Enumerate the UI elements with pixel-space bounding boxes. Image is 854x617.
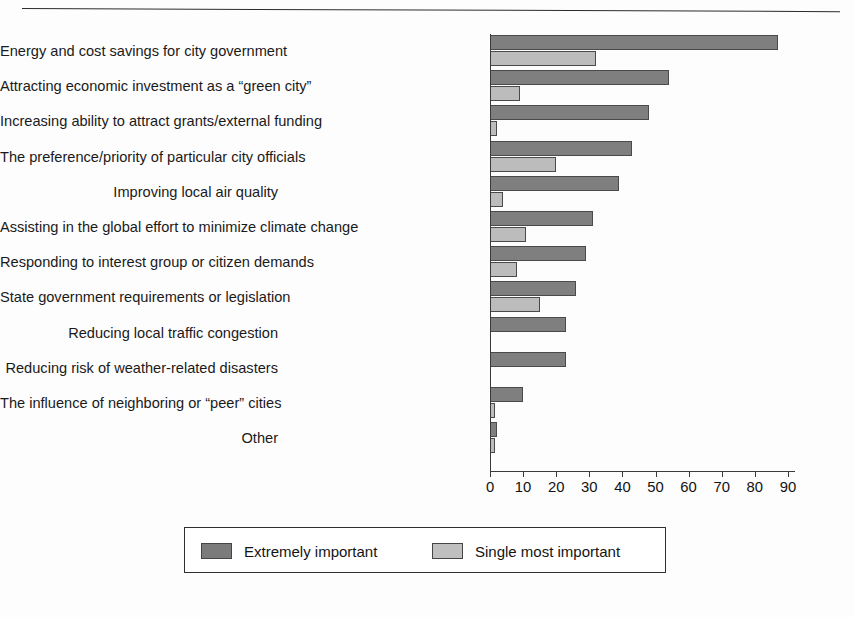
category-label: The influence of neighboring or “peer” c… [0, 386, 286, 421]
top-divider-rule [22, 8, 840, 12]
legend-swatch-icon [432, 543, 463, 559]
chart-legend: Extremely important Single most importan… [184, 527, 666, 573]
x-axis-tick [788, 471, 789, 477]
category-label: Reducing risk of weather-related disaste… [0, 351, 286, 386]
legend-item-extremely-important: Extremely important [201, 539, 377, 563]
plot-area: Energy and cost savings for city governm… [0, 34, 854, 470]
chart-row: The preference/priority of particular ci… [0, 140, 854, 175]
chart-row: Attracting economic investment as a “gre… [0, 69, 854, 104]
bar-extremely-important [490, 211, 593, 226]
bar-extremely-important [490, 281, 576, 296]
chart-row: Other [0, 421, 854, 456]
x-axis-tick [490, 471, 491, 477]
bar-extremely-important [490, 422, 497, 437]
bar-extremely-important [490, 70, 669, 85]
chart-row: Reducing local traffic congestion [0, 316, 854, 351]
chart-row: Energy and cost savings for city governm… [0, 34, 854, 69]
bar-group [490, 140, 850, 175]
bar-single-most-important [490, 86, 520, 101]
chart-row: Responding to interest group or citizen … [0, 245, 854, 280]
bar-extremely-important [490, 246, 586, 261]
x-axis-tick [656, 471, 657, 477]
bar-single-most-important [490, 262, 517, 277]
bar-single-most-important [490, 157, 556, 172]
x-axis-tick [722, 471, 723, 477]
bar-group [490, 280, 850, 315]
x-axis-tick [689, 471, 690, 477]
bar-group [490, 104, 850, 139]
x-axis-tick [622, 471, 623, 477]
category-label: Attracting economic investment as a “gre… [0, 69, 286, 104]
chart-row: Assisting in the global effort to minimi… [0, 210, 854, 245]
bar-group [490, 210, 850, 245]
category-label: Increasing ability to attract grants/ext… [0, 104, 286, 139]
chart-figure: Energy and cost savings for city governm… [0, 0, 854, 617]
bar-single-most-important [490, 297, 540, 312]
y-axis-line [490, 34, 491, 472]
bar-extremely-important [490, 176, 619, 191]
legend-swatch-icon [201, 543, 232, 559]
legend-item-single-most-important: Single most important [432, 539, 620, 563]
bar-extremely-important [490, 352, 566, 367]
chart-row: Improving local air quality [0, 175, 854, 210]
legend-label: Single most important [475, 543, 620, 560]
bar-single-most-important [490, 192, 503, 207]
bar-group [490, 69, 850, 104]
x-axis-tick [523, 471, 524, 477]
category-label: Energy and cost savings for city governm… [0, 34, 286, 69]
bar-extremely-important [490, 387, 523, 402]
chart-row: State government requirements or legisla… [0, 280, 854, 315]
chart-row: Increasing ability to attract grants/ext… [0, 104, 854, 139]
category-label: Responding to interest group or citizen … [0, 245, 286, 280]
x-tick-label: 90 [768, 479, 808, 495]
bar-group [490, 421, 850, 456]
x-axis-tick [755, 471, 756, 477]
legend-label: Extremely important [244, 543, 377, 560]
bar-group [490, 245, 850, 280]
chart-row: The influence of neighboring or “peer” c… [0, 386, 854, 421]
category-label: State government requirements or legisla… [0, 280, 286, 315]
bar-extremely-important [490, 141, 632, 156]
bar-group [490, 316, 850, 351]
bar-single-most-important [490, 227, 526, 242]
x-axis-line [490, 471, 795, 472]
bar-extremely-important [490, 105, 649, 120]
x-axis-tick [556, 471, 557, 477]
bar-group [490, 386, 850, 421]
bar-single-most-important [490, 51, 596, 66]
category-label: The preference/priority of particular ci… [0, 140, 286, 175]
x-axis-tick [589, 471, 590, 477]
bar-extremely-important [490, 317, 566, 332]
category-label: Other [0, 421, 286, 456]
bar-group [490, 351, 850, 386]
bar-group [490, 34, 850, 69]
bar-group [490, 175, 850, 210]
category-label: Reducing local traffic congestion [0, 316, 286, 351]
bar-extremely-important [490, 35, 778, 50]
category-label: Assisting in the global effort to minimi… [0, 210, 286, 245]
chart-row: Reducing risk of weather-related disaste… [0, 351, 854, 386]
bar-rows: Energy and cost savings for city governm… [0, 34, 854, 456]
category-label: Improving local air quality [0, 175, 286, 210]
